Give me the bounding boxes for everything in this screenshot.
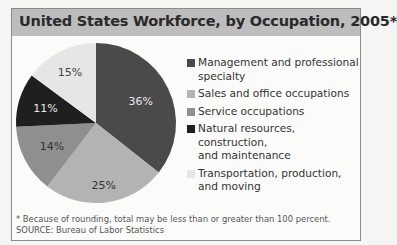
legend-label: Service occupations [198, 105, 360, 119]
slice-label: 11% [33, 102, 57, 115]
chart-panel: United States Workforce, by Occupation, … [11, 8, 361, 241]
slice-label: 36% [128, 95, 152, 108]
legend-swatch [187, 125, 195, 133]
legend-swatch [187, 170, 195, 178]
legend: Management and professionalspecialty Sal… [185, 56, 360, 198]
legend-swatch [187, 59, 195, 67]
slice-label: 15% [58, 66, 82, 79]
legend-item-transportation: Transportation, production,and moving [185, 167, 360, 194]
footnote: * Because of rounding, total may be less… [16, 214, 330, 236]
source-note: SOURCE: Bureau of Labor Statistics [16, 225, 330, 236]
legend-item-natural-resources: Natural resources, construction,and main… [185, 122, 360, 163]
legend-item-sales: Sales and office occupations [185, 87, 360, 101]
legend-item-service: Service occupations [185, 105, 360, 119]
legend-label: Natural resources, construction,and main… [198, 122, 360, 163]
legend-label: Transportation, production,and moving [198, 167, 360, 194]
slice-label: 14% [40, 140, 64, 153]
legend-swatch [187, 90, 195, 98]
legend-label: Sales and office occupations [198, 87, 360, 101]
slice-label: 25% [92, 179, 116, 192]
legend-item-management: Management and professionalspecialty [185, 56, 360, 83]
legend-swatch [187, 108, 195, 116]
legend-label: Management and professionalspecialty [198, 56, 360, 83]
